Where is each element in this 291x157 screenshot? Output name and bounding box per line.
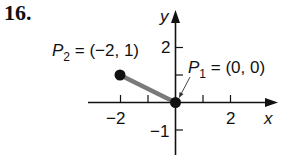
pointer-arrow-icon: [179, 92, 184, 98]
y-axis-label: y: [159, 7, 170, 26]
y-tick-label-neg1: −1: [150, 122, 169, 141]
x-tick-label-neg2: −2: [106, 109, 125, 128]
label-p1: P1 = (0, 0): [188, 58, 265, 81]
y-tick-marks: [176, 48, 184, 131]
point-p1: [170, 97, 181, 108]
point-p2: [115, 70, 126, 81]
coordinate-plane: −2 2 2 −1 x y P2 = (−2, 1) P1 = (0, 0): [0, 0, 291, 157]
x-axis-label: x: [263, 109, 273, 128]
x-tick-label-2: 2: [226, 109, 235, 128]
y-axis-arrow-icon: [171, 10, 180, 23]
y-tick-label-2: 2: [161, 38, 170, 57]
problem-number: 16.: [4, 0, 32, 26]
label-p2: P2 = (−2, 1): [52, 41, 139, 64]
x-axis-arrow-icon: [265, 98, 278, 107]
figure: 16. −2 2 2 −1: [0, 0, 291, 157]
